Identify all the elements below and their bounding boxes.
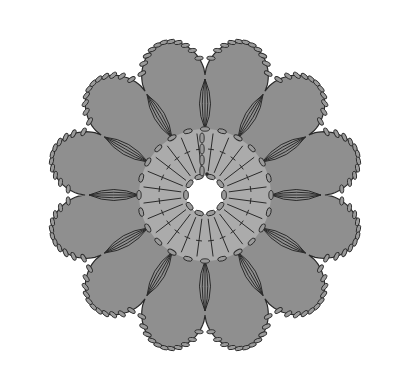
slip-stitch <box>205 172 209 176</box>
chain-stitch <box>340 185 344 194</box>
chain-stitch <box>66 197 70 206</box>
center-chain <box>222 191 227 200</box>
chain-stitch <box>188 48 197 53</box>
chain-stitch <box>347 178 352 187</box>
starting-chain <box>200 155 204 165</box>
center-chain <box>184 191 189 200</box>
chain-stitch <box>207 56 216 60</box>
chain-stitch <box>347 203 352 212</box>
chain-stitch <box>58 203 63 212</box>
edge-chain <box>137 191 141 200</box>
chain-stitch <box>213 48 222 53</box>
edge-chain <box>269 191 273 200</box>
starting-chain <box>200 133 204 143</box>
chain-stitch <box>195 56 204 60</box>
crochet-chart-svg <box>0 0 399 389</box>
chain-stitch <box>66 185 70 194</box>
chain-stitch <box>195 330 204 334</box>
chain-stitch <box>340 197 344 206</box>
crochet-diagram <box>0 0 399 389</box>
starting-chain <box>200 166 204 176</box>
edge-chain <box>201 259 210 263</box>
starting-chain <box>200 144 204 154</box>
chain-stitch <box>213 337 222 342</box>
chain-stitch <box>188 337 197 342</box>
edge-chain <box>201 127 210 131</box>
chain-stitch <box>58 178 63 187</box>
chain-stitch <box>207 330 216 334</box>
